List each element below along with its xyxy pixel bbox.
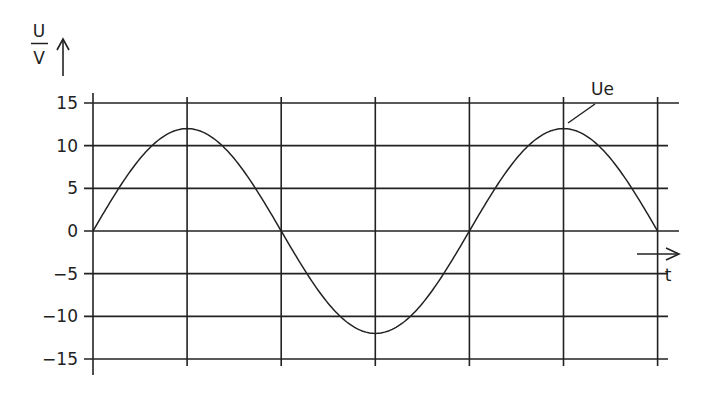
y-axis-arrow-icon (57, 39, 69, 76)
annotation-leader-line (568, 104, 595, 123)
y-tick-label: 15 (56, 93, 78, 113)
y-tick-label: 10 (56, 136, 78, 156)
y-axis-label: U V (31, 21, 48, 68)
y-tick-label: −15 (42, 349, 78, 369)
y-tick-label: −5 (53, 264, 78, 284)
series-ue-annotation: Ue (568, 79, 614, 123)
x-axis-label: t (665, 265, 672, 285)
y-tick-label: −10 (42, 306, 78, 326)
series-ue-label: Ue (591, 79, 614, 99)
y-axis-label-unit-v: V (33, 48, 45, 68)
y-tick-labels: 151050−5−10−15 (42, 93, 78, 369)
y-tick-label: 5 (67, 178, 78, 198)
y-axis-label-unit-u: U (33, 21, 45, 41)
y-tick-label: 0 (67, 221, 78, 241)
sine-voltage-chart: U V 151050−5−10−15 Ue t (0, 0, 708, 396)
